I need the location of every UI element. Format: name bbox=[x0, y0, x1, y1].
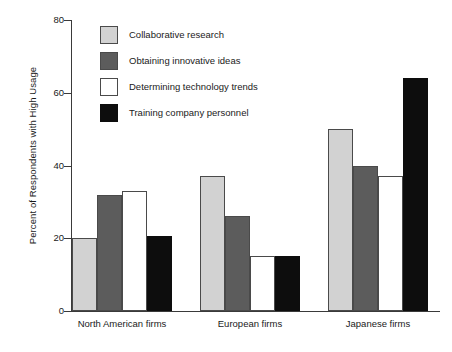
legend-swatch-icon bbox=[100, 26, 118, 44]
legend-swatch-icon bbox=[100, 104, 118, 122]
y-axis-tick-label: 0 bbox=[40, 306, 64, 316]
bar bbox=[97, 195, 122, 311]
bar bbox=[250, 256, 275, 311]
x-axis-line bbox=[71, 311, 440, 312]
bar bbox=[328, 129, 353, 311]
y-axis-tick: 80 bbox=[0, 20, 64, 21]
y-axis-tick: 0 bbox=[0, 311, 64, 312]
legend-swatch-icon bbox=[100, 52, 118, 70]
legend-item-label: Determining technology trends bbox=[129, 81, 258, 93]
legend-item-label: Training company personnel bbox=[129, 107, 249, 119]
y-axis-tick: 40 bbox=[0, 166, 64, 167]
bar bbox=[275, 256, 300, 311]
x-axis-group-label: North American firms bbox=[62, 318, 182, 330]
y-axis-tick-label: 60 bbox=[40, 88, 64, 98]
bar bbox=[378, 176, 403, 311]
bar bbox=[72, 238, 97, 311]
bar-chart: Percent of Respondents with High Usage 0… bbox=[0, 0, 452, 352]
legend-item-label: Collaborative research bbox=[129, 29, 224, 41]
y-axis-title: Percent of Respondents with High Usage bbox=[22, 0, 44, 311]
y-axis-tick-label: 40 bbox=[40, 161, 64, 171]
y-axis-tick: 20 bbox=[0, 238, 64, 239]
bar bbox=[353, 166, 378, 312]
bar bbox=[122, 191, 147, 311]
x-axis-group-label: European firms bbox=[190, 318, 310, 330]
bar bbox=[225, 216, 250, 311]
plot-area bbox=[71, 20, 440, 311]
legend-item-label: Obtaining innovative ideas bbox=[129, 55, 240, 67]
x-axis-group-label: Japanese firms bbox=[318, 318, 438, 330]
bar bbox=[200, 176, 225, 311]
bar bbox=[403, 78, 428, 311]
y-axis-tick-label: 80 bbox=[40, 15, 64, 25]
y-axis-tick: 60 bbox=[0, 93, 64, 94]
y-axis-tick-label: 20 bbox=[40, 233, 64, 243]
bar bbox=[147, 236, 172, 311]
legend-swatch-icon bbox=[100, 78, 118, 96]
